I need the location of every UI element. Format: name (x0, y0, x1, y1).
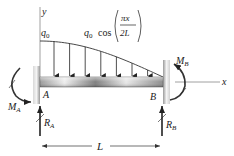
load-expression: q0 cos πx 2L (84, 10, 141, 42)
reaction-a-label: RA (43, 117, 55, 130)
right-wall (163, 60, 170, 104)
moment-a-arrow (12, 68, 31, 102)
beam-shading (40, 77, 163, 87)
expression-q0: q0 (84, 27, 93, 40)
point-b-label: B (150, 91, 156, 102)
load-distribution-curve (40, 41, 163, 77)
beam-diagram: y q0 q0 cos πx 2L x A B MA MB (0, 0, 234, 156)
left-wall (33, 66, 40, 104)
y-axis-label: y (41, 6, 47, 17)
point-a-label: A (42, 89, 50, 100)
load-arrows (54, 42, 148, 76)
moment-a-label: MA (7, 101, 21, 114)
left-paren (115, 10, 118, 42)
expression-cos: cos (98, 27, 111, 38)
x-axis-label: x (221, 76, 227, 87)
expression-numerator: πx (121, 13, 130, 23)
expression-denominator: 2L (120, 28, 130, 38)
reaction-b-label: RB (165, 119, 177, 132)
moment-b-tick (180, 88, 186, 95)
right-paren (138, 10, 141, 42)
q0-label: q0 (41, 27, 50, 40)
span-label: L (96, 140, 103, 152)
